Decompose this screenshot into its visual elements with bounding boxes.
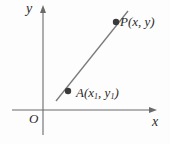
point-p-close-paren: ) xyxy=(150,14,154,29)
point-p-comma: , xyxy=(138,14,141,29)
point-a-label: A(x1, y1) xyxy=(76,86,119,101)
coordinate-diagram-figure: y x O P(x, y) A(x1, y1) xyxy=(0,0,170,144)
point-a-name: A xyxy=(76,85,84,100)
point-p-dot xyxy=(113,19,119,25)
y-axis-label: y xyxy=(26,2,32,16)
point-a-dot xyxy=(65,88,71,94)
x-axis-label: x xyxy=(152,115,158,129)
x-axis-arrowhead xyxy=(149,107,157,113)
point-p-label: P(x, y) xyxy=(120,15,155,28)
origin-label: O xyxy=(29,112,38,125)
point-a-close-paren: ) xyxy=(114,85,118,100)
point-a-comma: , xyxy=(98,85,101,100)
y-axis-arrowhead xyxy=(40,5,46,13)
point-p-name: P xyxy=(120,14,128,29)
